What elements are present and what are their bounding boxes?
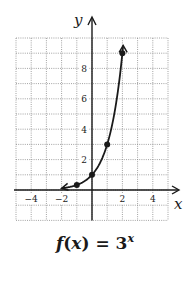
- y-tick-label: 8: [81, 64, 87, 74]
- data-point: [74, 182, 80, 188]
- x-axis-label: x: [174, 195, 183, 213]
- x-tick-label: 2: [120, 194, 126, 204]
- x-tick-label: −4: [25, 194, 39, 204]
- x-tick-label: 4: [150, 194, 156, 204]
- y-tick-label: 6: [81, 94, 87, 104]
- y-axis-label: y: [73, 11, 83, 29]
- caption-x: x: [71, 233, 81, 253]
- x-tick-label: −2: [55, 194, 68, 204]
- caption-equals-base: ) = 3: [82, 233, 128, 253]
- exponential-graph: xy−4−2242468: [0, 0, 190, 230]
- data-point: [104, 141, 110, 147]
- data-point: [119, 50, 125, 56]
- data-point: [89, 172, 95, 178]
- y-tick-label: 4: [81, 125, 87, 135]
- caption-exponent: x: [127, 232, 134, 245]
- y-tick-label: 2: [81, 155, 87, 165]
- function-caption: f(x) = 3x: [0, 232, 190, 253]
